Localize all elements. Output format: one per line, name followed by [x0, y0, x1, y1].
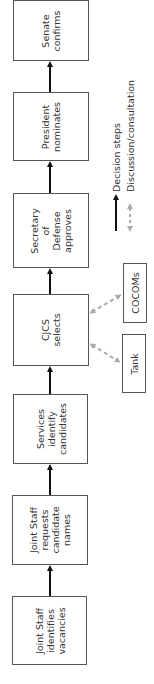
- arrow-cjcs-tank: [92, 345, 118, 361]
- discussion-arrows: [92, 296, 119, 361]
- legend-decision-label: Decision steps: [111, 123, 122, 192]
- arrow-cjcs-cocoms: [92, 296, 119, 312]
- legend-arrows: [116, 197, 130, 231]
- legend-discussion-label: Discussion/consultation: [125, 80, 136, 192]
